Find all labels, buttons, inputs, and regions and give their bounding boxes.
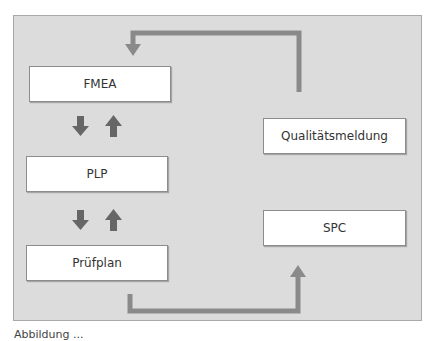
box-pruefplan: Prüfplan xyxy=(26,245,168,281)
box-qualitaetsmeldung: Qualitätsmeldung xyxy=(263,118,406,154)
arrowhead-up-icon xyxy=(290,265,306,277)
figure-caption: Abbildung ... xyxy=(14,328,84,341)
box-fmea: FMEA xyxy=(29,66,171,102)
down-arrow-icon xyxy=(72,210,89,230)
box-spc: SPC xyxy=(263,210,406,246)
up-arrow-icon xyxy=(105,209,122,231)
down-arrow-icon xyxy=(72,116,89,136)
box-label: SPC xyxy=(323,221,346,235)
box-label: FMEA xyxy=(83,77,116,91)
box-label: Qualitätsmeldung xyxy=(281,129,388,143)
up-arrow-icon xyxy=(105,115,122,137)
box-label: PLP xyxy=(86,167,107,181)
arrowhead-down-icon xyxy=(125,44,141,56)
box-label: Prüfplan xyxy=(72,256,122,270)
box-plp: PLP xyxy=(26,156,168,192)
